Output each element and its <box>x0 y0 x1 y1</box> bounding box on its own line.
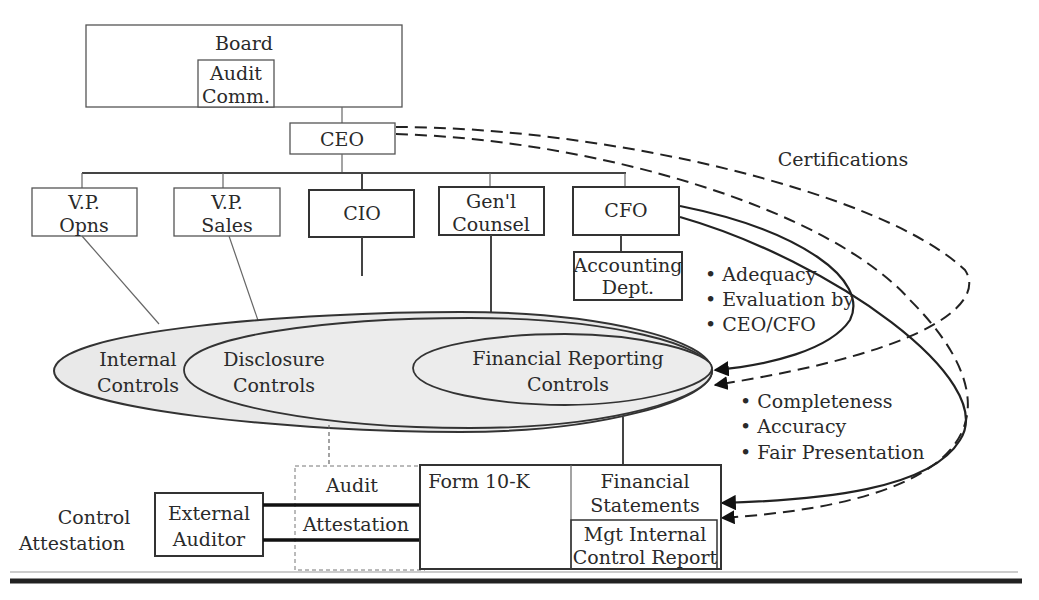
certifications-label: Certifications <box>778 148 908 170</box>
form-10k-label: Form 10-K <box>428 470 530 492</box>
financial-statements-line2: Statements <box>590 494 700 516</box>
genl-counsel-line2: Counsel <box>452 213 530 235</box>
external-auditor-line2: Auditor <box>172 528 246 550</box>
vp-sales-line2: Sales <box>201 214 252 236</box>
audit-committee-box: Audit Comm. <box>198 60 274 107</box>
quality-bullet-2: • Accuracy <box>740 415 847 437</box>
cfo-label: CFO <box>604 199 647 221</box>
control-attestation-line1: Control <box>58 506 130 528</box>
accounting-dept-box: Accounting Dept. <box>572 252 682 300</box>
internal-controls-line2: Controls <box>97 374 179 396</box>
vp-opns-line2: Opns <box>59 214 109 236</box>
accounting-line2: Dept. <box>602 276 654 298</box>
vp-sales-box: V.P. Sales <box>174 188 280 236</box>
audit-label: Audit <box>325 474 378 496</box>
disclosure-controls-line1: Disclosure <box>223 348 325 370</box>
quality-bullets: • Completeness • Accuracy • Fair Present… <box>740 390 924 463</box>
mgt-report-line1: Mgt Internal <box>584 523 707 545</box>
mgt-report-cell: Mgt Internal Control Report <box>571 520 718 569</box>
financial-statements-line1: Financial <box>600 470 689 492</box>
cfo-box: CFO <box>573 187 679 235</box>
disclosure-controls-line2: Controls <box>233 374 315 396</box>
financial-reporting-line1: Financial Reporting <box>472 347 664 369</box>
control-attestation-line2: Attestation <box>18 532 125 554</box>
mgt-report-line2: Control Report <box>573 546 718 568</box>
genl-counsel-box: Gen'l Counsel <box>439 187 544 235</box>
board-label: Board <box>215 32 273 54</box>
audit-committee-line2: Comm. <box>202 85 270 107</box>
financial-reporting-line2: Controls <box>527 373 609 395</box>
external-auditor-line1: External <box>168 502 250 524</box>
evaluation-bullet-1: • Adequacy <box>705 263 817 285</box>
genl-counsel-line1: Gen'l <box>466 190 516 212</box>
attestation-label: Attestation <box>302 513 409 535</box>
quality-bullet-3: • Fair Presentation <box>740 441 924 463</box>
ceo-label: CEO <box>320 128 364 150</box>
ceo-box: CEO <box>290 123 395 154</box>
quality-bullet-1: • Completeness <box>740 390 893 412</box>
audit-committee-line1: Audit <box>209 62 262 84</box>
accounting-line1: Accounting <box>572 254 682 276</box>
evaluation-bullets: • Adequacy • Evaluation by • CEO/CFO <box>705 263 854 335</box>
vp-sales-line1: V.P. <box>210 191 242 213</box>
internal-controls-line1: Internal <box>99 348 176 370</box>
evaluation-bullet-2: • Evaluation by <box>705 288 854 310</box>
evaluation-bullet-3: • CEO/CFO <box>705 313 816 335</box>
vp-opns-box: V.P. Opns <box>32 188 137 236</box>
cio-box: CIO <box>309 190 414 237</box>
vp-opns-line1: V.P. <box>67 191 99 213</box>
cio-label: CIO <box>343 202 381 224</box>
external-auditor-box: External Auditor <box>155 493 263 556</box>
control-diagram: Board Audit Comm. CEO V.P. Opns V.P. Sal… <box>0 0 1039 600</box>
